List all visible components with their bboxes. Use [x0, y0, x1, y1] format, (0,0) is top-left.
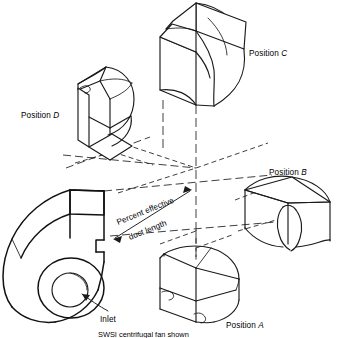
label-position-d: Position D — [21, 111, 59, 120]
label-position-a: Position A — [226, 321, 264, 330]
label-position-b: Position B — [269, 168, 307, 177]
label-position-b-prefix: Position — [269, 168, 301, 177]
label-position-b-letter: B — [301, 168, 307, 177]
label-position-c-prefix: Position — [249, 49, 281, 58]
figure-caption: SWSI centrifugal fan shown — [98, 330, 189, 338]
figure-canvas: Position C Position D Position B Positio… — [0, 0, 340, 338]
label-position-a-letter: A — [257, 321, 264, 330]
label-position-a-prefix: Position — [226, 321, 258, 330]
label-position-d-prefix: Position — [21, 111, 53, 120]
label-position-d-letter: D — [53, 111, 59, 120]
label-inlet: Inlet — [100, 315, 117, 324]
fan-duct-positions-diagram: Position C Position D Position B Positio… — [0, 0, 340, 338]
label-position-c: Position C — [249, 49, 287, 58]
label-position-c-letter: C — [281, 49, 287, 58]
